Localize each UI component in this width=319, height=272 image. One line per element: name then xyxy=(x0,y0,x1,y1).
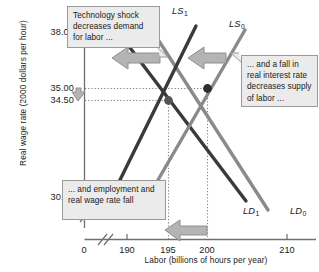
demand-callout-leader xyxy=(157,47,168,57)
curve-label-ls0-base: LS xyxy=(229,19,241,29)
x-tick-label-210: 210 xyxy=(269,245,305,255)
y-axis-title: Real wage rate (2000 dollars per hour) xyxy=(18,8,28,178)
y-tick-label-34-50: 34.50 xyxy=(28,95,74,105)
curve-label-ld0-base: LD xyxy=(290,206,302,216)
curve-label-ls0-sub: 0 xyxy=(241,23,245,30)
chart-figure: Real wage rate (2000 dollars per hour) L… xyxy=(0,0,319,272)
x-tick-label-190: 190 xyxy=(109,245,145,255)
curve-label-ld1: LD1 xyxy=(243,206,259,216)
callout-demand-shift: Technology shock decreases demand for la… xyxy=(67,6,160,48)
x-axis-title: Labor (billions of hours per year) xyxy=(96,255,316,265)
callout-outcome: ... and employment and real wage rate fa… xyxy=(62,180,166,220)
curve-label-ld1-sub: 1 xyxy=(255,210,259,217)
y-tick-label-35: 35.00 xyxy=(28,83,74,93)
x-tick-label-200: 200 xyxy=(189,245,225,255)
curve-label-ld0-sub: 0 xyxy=(302,210,306,217)
curve-label-ls1-base: LS xyxy=(172,6,184,16)
x-axis-origin-label: 0 xyxy=(66,245,102,255)
curve-label-ls1-sub: 1 xyxy=(184,10,188,17)
curve-label-ld1-base: LD xyxy=(243,206,255,216)
curve-label-ld0: LD0 xyxy=(290,206,306,216)
curve-label-ls1: LS1 xyxy=(172,6,187,16)
curve-label-ls0: LS0 xyxy=(229,19,244,29)
x-tick-label-195: 195 xyxy=(150,245,186,255)
callout-supply-shift: ... and a fall in real interest rate dec… xyxy=(241,55,318,107)
